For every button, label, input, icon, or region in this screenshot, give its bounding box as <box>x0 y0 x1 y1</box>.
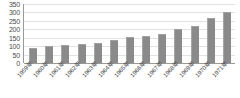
bar-slot <box>41 4 57 63</box>
bar[interactable] <box>174 29 182 63</box>
y-tick-label: 200 <box>9 26 20 33</box>
bar-slot <box>203 4 219 63</box>
bar-slot <box>25 4 41 63</box>
y-axis: 350 300 250 200 150 100 50 0 <box>0 4 22 63</box>
bar[interactable] <box>78 44 86 63</box>
bar-slot <box>57 4 73 63</box>
bar-slot <box>122 4 138 63</box>
y-tick-label: 100 <box>9 43 20 50</box>
bar[interactable] <box>223 12 231 63</box>
bar-slot <box>73 4 89 63</box>
y-tick-label: 350 <box>9 1 20 8</box>
y-tick-label: 50 <box>13 51 20 58</box>
bar[interactable] <box>191 26 199 63</box>
y-tick-label: 300 <box>9 9 20 16</box>
bar-slot <box>90 4 106 63</box>
plot-area <box>23 4 235 63</box>
bar-series <box>25 4 235 63</box>
bar[interactable] <box>61 45 69 63</box>
bar-chart: 350 300 250 200 150 100 50 0 <box>0 0 240 98</box>
x-tick: 1971年 <box>219 64 235 98</box>
bar[interactable] <box>110 40 118 63</box>
bar-slot <box>106 4 122 63</box>
bar[interactable] <box>142 36 150 63</box>
bar[interactable] <box>207 18 215 63</box>
x-axis: 1959年 1960年 1961年 1962年 1963年 1964年 1965… <box>24 64 235 98</box>
bar[interactable] <box>126 37 134 63</box>
y-tick-label: 250 <box>9 17 20 24</box>
bar-slot <box>187 4 203 63</box>
y-tick-label: 0 <box>16 60 20 67</box>
bar-slot <box>219 4 235 63</box>
bar-slot <box>138 4 154 63</box>
bar-slot <box>154 4 170 63</box>
y-tick-label: 150 <box>9 34 20 41</box>
bar[interactable] <box>158 34 166 63</box>
bar-slot <box>170 4 186 63</box>
